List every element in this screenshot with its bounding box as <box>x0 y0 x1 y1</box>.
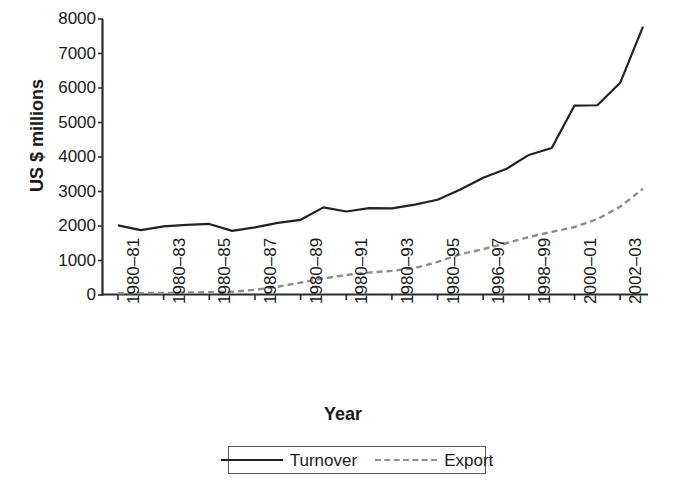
legend-line-solid-icon <box>221 459 283 461</box>
y-tick-label: 6000 <box>10 79 96 96</box>
y-tick-label: 8000 <box>10 10 96 27</box>
y-tick-label: 2000 <box>10 217 96 234</box>
chart-figure: US $ millions 80007000600050004000300020… <box>0 0 686 489</box>
axis-lines <box>103 19 649 296</box>
y-axis-tick-labels: 800070006000500040003000200010000 <box>10 0 96 330</box>
y-tick-label: 4000 <box>10 148 96 165</box>
legend-label-export: Export <box>444 452 493 469</box>
legend-entry-export: Export <box>375 452 493 469</box>
x-axis-title: Year <box>0 404 686 425</box>
y-tick-label: 5000 <box>10 114 96 131</box>
y-tick-label: 1000 <box>10 252 96 269</box>
legend-label-turnover: Turnover <box>290 452 357 469</box>
legend-line-dashed-icon <box>375 459 437 461</box>
axis-tick-marks <box>98 19 620 300</box>
y-tick-label: 0 <box>10 286 96 303</box>
data-series-group <box>118 27 643 294</box>
series-line-turnover <box>118 27 643 231</box>
y-tick-label: 3000 <box>10 183 96 200</box>
chart-legend: Turnover Export <box>228 446 486 474</box>
series-line-export <box>118 189 643 294</box>
y-tick-label: 7000 <box>10 45 96 62</box>
legend-entry-turnover: Turnover <box>221 452 357 469</box>
